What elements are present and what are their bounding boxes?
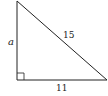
label-hypotenuse: 15 xyxy=(63,30,75,40)
label-vertical-leg: a xyxy=(8,36,14,47)
right-angle-marker xyxy=(17,73,24,80)
hypotenuse xyxy=(17,1,107,80)
triangle xyxy=(17,1,107,80)
right-triangle-diagram: a 15 11 xyxy=(0,0,108,96)
label-horizontal-leg: 11 xyxy=(56,83,67,93)
